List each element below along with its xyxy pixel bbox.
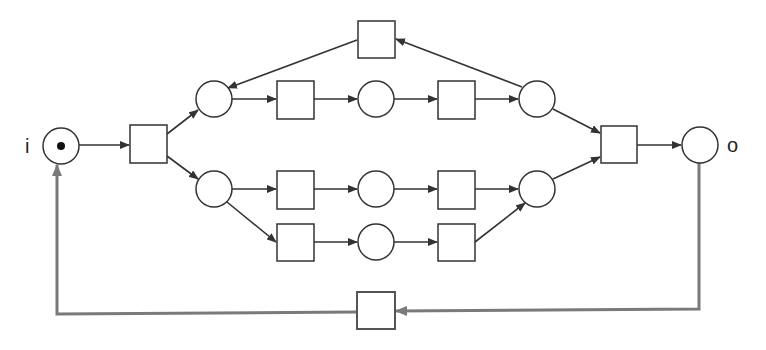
arc-t1-p4 — [167, 156, 198, 179]
petri-net-diagram: i o — [0, 0, 766, 350]
arc-p3-tloop — [396, 39, 522, 87]
transition-t6[interactable] — [277, 224, 314, 261]
place-p4[interactable] — [196, 171, 232, 207]
sink-place-label: o — [727, 134, 738, 156]
arc-t7-p6 — [475, 203, 525, 242]
source-place-label: i — [25, 135, 29, 157]
transition-t7[interactable] — [438, 224, 475, 261]
transition-t5[interactable] — [438, 171, 475, 209]
token-icon — [57, 142, 65, 150]
place-p1[interactable] — [196, 81, 232, 117]
transition-loop[interactable] — [358, 21, 395, 58]
arc-t1-p1 — [167, 110, 198, 134]
place-o[interactable] — [682, 127, 718, 163]
arc-p6-t8 — [553, 157, 600, 179]
transition-t4[interactable] — [277, 171, 314, 209]
place-p7[interactable] — [358, 224, 394, 260]
arc-p4-t6 — [227, 202, 276, 242]
place-p6[interactable] — [519, 171, 555, 207]
transition-t2[interactable] — [277, 81, 314, 119]
transition-t8[interactable] — [601, 126, 637, 163]
place-p3[interactable] — [519, 81, 555, 117]
transition-t3[interactable] — [438, 81, 475, 119]
arcs — [79, 39, 681, 242]
place-p2[interactable] — [358, 81, 394, 117]
arc-p3-t8 — [553, 109, 600, 133]
place-p5[interactable] — [358, 171, 394, 207]
places — [43, 81, 718, 260]
transition-reset[interactable] — [357, 292, 395, 329]
transition-t1[interactable] — [130, 125, 167, 163]
